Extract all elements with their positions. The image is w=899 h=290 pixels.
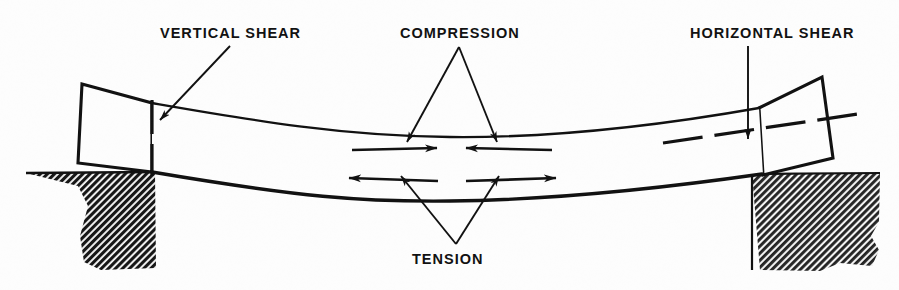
beam-body	[152, 103, 763, 201]
right-support-block	[752, 173, 880, 271]
label-vertical-shear: VERTICAL SHEAR	[160, 26, 301, 41]
leader-compression-right	[459, 47, 497, 142]
left-beam-end-face	[78, 84, 152, 172]
beam-stress-illustration	[0, 0, 899, 290]
diagram-canvas: VERTICAL SHEAR COMPRESSION HORIZONTAL SH…	[0, 0, 899, 290]
leader-compression-left	[407, 47, 459, 142]
left-support-block	[26, 172, 156, 270]
label-tension: TENSION	[412, 252, 483, 267]
leader-vertical-shear	[160, 46, 230, 120]
label-horizontal-shear: HORIZONTAL SHEAR	[690, 26, 855, 41]
label-compression: COMPRESSION	[400, 26, 520, 41]
